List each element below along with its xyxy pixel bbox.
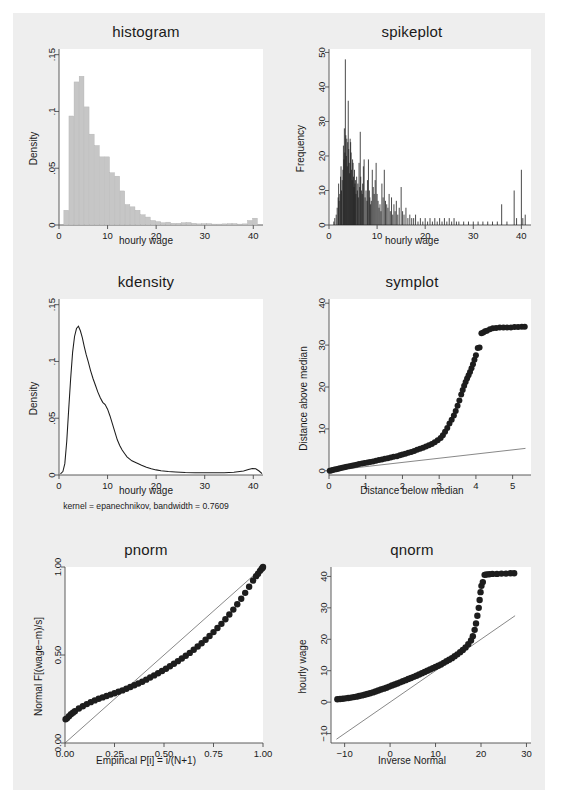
kdensity-xtick: 0 xyxy=(56,480,61,491)
symplot-plot-area: 012345010203040 xyxy=(279,263,545,513)
panel-kdensity: kdensity Density hourly wage kernel = ep… xyxy=(13,263,279,531)
pnorm-xtick: 1.00 xyxy=(254,748,273,759)
histogram-ytick: 0 xyxy=(46,222,57,227)
histogram-xtick: 0 xyxy=(56,230,61,241)
kdensity-ytick: 0 xyxy=(46,472,57,477)
symplot-xtick: 1 xyxy=(363,480,368,491)
qnorm-ytick: 20 xyxy=(318,634,329,645)
qnorm-plot-area: −100102030−10010203040 xyxy=(279,531,545,781)
spikeplot-ytick: 10 xyxy=(316,185,327,196)
panel-pnorm: pnorm Normal F[(wage−m)/s] Empirical P[i… xyxy=(13,531,279,790)
pnorm-ytick: 0.00 xyxy=(52,734,63,753)
figure-sheet: histogram Density hourly wage 0102030400… xyxy=(13,13,545,790)
symplot-ytick: 20 xyxy=(316,382,327,393)
kdensity-plot-area: 0102030400.05.1.15 xyxy=(13,263,279,513)
symplot-xtick: 3 xyxy=(437,480,442,491)
kdensity-xtick: 10 xyxy=(102,480,113,491)
panel-qnorm: qnorm hourly wage Inverse Normal −100102… xyxy=(279,531,545,790)
pnorm-xtick: 0.75 xyxy=(204,748,223,759)
symplot-xtick: 5 xyxy=(510,480,515,491)
qnorm-xtick: 0 xyxy=(387,748,392,759)
histogram-xtick: 10 xyxy=(102,230,113,241)
kdensity-xtick: 30 xyxy=(199,480,210,491)
histogram-ytick: .05 xyxy=(46,162,57,175)
spikeplot-plot-area: 01020304001020304050 xyxy=(279,13,545,263)
symplot-xtick: 0 xyxy=(326,480,331,491)
qnorm-xtick: −10 xyxy=(337,748,353,759)
pnorm-ytick: 0.50 xyxy=(52,646,63,665)
kdensity-ytick: .15 xyxy=(46,298,57,311)
spikeplot-ytick: 20 xyxy=(316,151,327,162)
spikeplot-ytick: 30 xyxy=(316,116,327,127)
symplot-ytick: 10 xyxy=(316,424,327,435)
spikeplot-xtick: 0 xyxy=(326,230,331,241)
symplot-ytick: 0 xyxy=(316,468,327,473)
panel-histogram: histogram Density hourly wage 0102030400… xyxy=(13,13,279,263)
symplot-xtick: 4 xyxy=(473,480,478,491)
histogram-plot-area: 0102030400.05.1.15 xyxy=(13,13,279,263)
qnorm-xtick: 10 xyxy=(430,748,441,759)
spikeplot-xtick: 40 xyxy=(516,230,527,241)
pnorm-plot-area: 0.000.250.500.751.000.000.501.00 xyxy=(13,531,279,781)
spikeplot-xtick: 20 xyxy=(420,230,431,241)
pnorm-xtick: 0.25 xyxy=(105,748,124,759)
spikeplot-ytick: 40 xyxy=(316,82,327,93)
histogram-xtick: 30 xyxy=(199,230,210,241)
symplot-ytick: 30 xyxy=(316,340,327,351)
panel-symplot: symplot Distance above median Distance b… xyxy=(279,263,545,531)
histogram-ytick: .1 xyxy=(46,107,57,115)
kdensity-ytick: .1 xyxy=(46,357,57,365)
qnorm-ytick: −10 xyxy=(318,726,329,742)
histogram-ytick: .15 xyxy=(46,48,57,61)
histogram-xtick: 20 xyxy=(151,230,162,241)
symplot-ytick: 40 xyxy=(316,298,327,309)
spikeplot-xtick: 10 xyxy=(372,230,383,241)
panel-spikeplot: spikeplot Frequency hourly wage 01020304… xyxy=(279,13,545,263)
spikeplot-ytick: 50 xyxy=(316,47,327,58)
pnorm-ytick: 1.00 xyxy=(52,558,63,577)
qnorm-xtick: 20 xyxy=(476,748,487,759)
qnorm-ytick: 0 xyxy=(318,699,329,704)
symplot-xtick: 2 xyxy=(400,480,405,491)
kdensity-ytick: .05 xyxy=(46,412,57,425)
qnorm-ytick: 40 xyxy=(318,571,329,582)
histogram-xtick: 40 xyxy=(248,230,259,241)
qnorm-ytick: 10 xyxy=(318,665,329,676)
qnorm-xtick: 30 xyxy=(521,748,532,759)
kdensity-xtick: 20 xyxy=(151,480,162,491)
kdensity-xtick: 40 xyxy=(248,480,259,491)
qnorm-ytick: 30 xyxy=(318,603,329,614)
pnorm-xtick: 0.50 xyxy=(155,748,174,759)
figure-page: histogram Density hourly wage 0102030400… xyxy=(0,0,567,803)
spikeplot-xtick: 30 xyxy=(468,230,479,241)
spikeplot-ytick: 0 xyxy=(316,222,327,227)
